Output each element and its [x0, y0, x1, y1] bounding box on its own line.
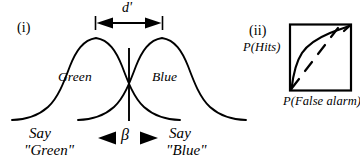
response-right-line2: "Blue": [166, 143, 207, 159]
panel-ii-graphics: [290, 25, 351, 91]
d-prime-arrowhead-left: [97, 18, 114, 29]
roc-curve: [292, 26, 351, 90]
d-prime-arrowhead-right: [145, 18, 162, 29]
response-left-line1: Say: [29, 126, 51, 142]
beta-label: β: [121, 127, 129, 144]
response-right-line1: Say: [169, 126, 191, 142]
distribution-label-blue: Blue: [152, 70, 177, 84]
figure-signal-detection: (i) d' Green Blue β Say "Green" Say "Blu…: [0, 0, 360, 166]
response-left-line2: "Green": [24, 143, 74, 159]
roc-y-axis-label: P(Hits): [243, 41, 281, 54]
d-prime-label: d': [122, 1, 132, 16]
beta-arrow-right-icon: [140, 132, 158, 145]
roc-x-axis-label: P(False alarm): [283, 95, 360, 108]
d-prime-measure: [96, 16, 163, 30]
beta-arrow-left-icon: [98, 132, 116, 145]
distribution-label-green: Green: [58, 70, 92, 84]
panel-ii-tag: (ii): [249, 24, 267, 39]
panel-i-tag: (i): [17, 21, 31, 36]
